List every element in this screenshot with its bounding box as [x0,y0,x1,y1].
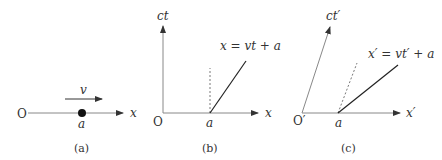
particle-dot [78,109,86,117]
panel-b: ct x O a x = vt + a (b) [153,9,281,155]
panel-c: ct′ x′ O′ a x′ = vt′ + a (c) [293,9,434,155]
point-label-a: a [78,117,85,131]
caption-a: (a) [74,142,89,155]
caption-c: (c) [341,142,356,155]
ct-prime-axis [302,27,330,113]
origin-label-c: O′ [293,114,306,128]
x-axis-label-b: x [265,106,272,120]
ct-axis-label-b: ct [157,9,169,23]
panel-a: O x a v (a) [17,83,137,155]
worldline-label-c: x′ = vt′ + a [368,47,434,61]
point-label-c: a [335,116,342,130]
spacetime-diagram: O x a v (a) ct x O a x = vt + a (b) ct′ … [0,0,442,160]
x-axis-label-a: x [130,106,137,120]
velocity-label: v [80,83,87,97]
origin-label-b: O [153,115,163,129]
worldline-b [210,61,246,113]
caption-b: (b) [202,142,218,155]
ct-prime-axis-label: ct′ [326,9,341,23]
point-label-b: a [206,116,213,130]
x-prime-axis-label: x′ [406,106,416,120]
origin-label-a: O [17,107,27,121]
worldline-label-b: x = vt + a [220,39,281,53]
